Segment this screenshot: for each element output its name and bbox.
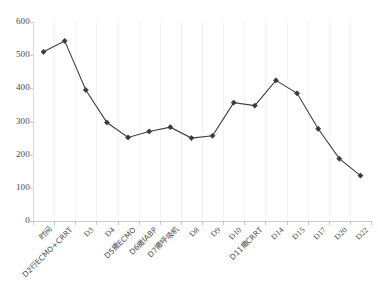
x-tick-mark bbox=[329, 222, 330, 225]
x-tick-mark bbox=[139, 222, 140, 225]
x-tick-mark bbox=[202, 222, 203, 225]
x-tick-mark bbox=[54, 222, 55, 225]
x-tick-mark bbox=[118, 222, 119, 225]
x-tick-mark bbox=[33, 222, 34, 225]
x-tick-mark bbox=[287, 222, 288, 225]
x-tick-mark bbox=[265, 222, 266, 225]
x-tick-mark bbox=[223, 222, 224, 225]
y-tick-mark bbox=[30, 55, 33, 56]
x-tick-mark bbox=[160, 222, 161, 225]
x-tick-mark bbox=[350, 222, 351, 225]
y-tick-mark bbox=[30, 155, 33, 156]
x-tick-mark bbox=[371, 222, 372, 225]
y-tick-mark bbox=[30, 88, 33, 89]
x-tick-mark bbox=[181, 222, 182, 225]
x-tick-mark bbox=[75, 222, 76, 225]
x-axis: 时间D2行ECMO+CRRTD3D4D5撤ECMOD6撤IABPD7撤呼吸机D8… bbox=[0, 0, 378, 297]
x-tick-mark bbox=[96, 222, 97, 225]
x-tick-mark bbox=[308, 222, 309, 225]
y-tick-mark bbox=[30, 188, 33, 189]
y-tick-mark bbox=[30, 22, 33, 23]
y-tick-mark bbox=[30, 122, 33, 123]
line-chart: 0100200300400500600 时间D2行ECMO+CRRTD3D4D5… bbox=[0, 0, 378, 297]
x-tick-mark bbox=[244, 222, 245, 225]
